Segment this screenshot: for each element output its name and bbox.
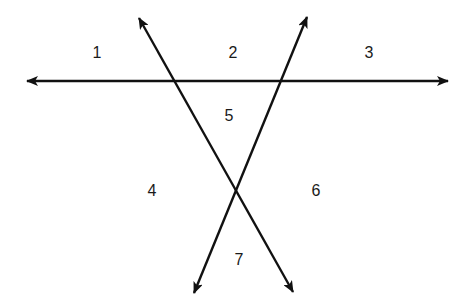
intersecting-lines-diagram: 1 2 3 4 5 6 7 (0, 0, 475, 304)
region-label-2: 2 (229, 45, 238, 61)
region-label-6: 6 (312, 183, 321, 199)
line-ascending (194, 17, 307, 293)
region-label-3: 3 (365, 45, 374, 61)
region-label-4: 4 (148, 183, 157, 199)
region-label-1: 1 (93, 45, 102, 61)
region-label-7: 7 (235, 252, 244, 268)
line-descending (139, 18, 293, 292)
region-label-5: 5 (225, 108, 234, 124)
